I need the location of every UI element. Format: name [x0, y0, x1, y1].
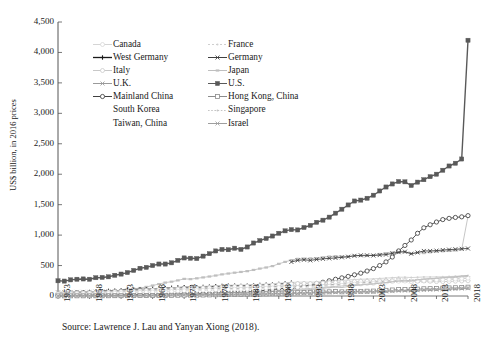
legend-label: Germany: [228, 51, 263, 64]
legend-marker-x-small-icon: [207, 118, 228, 129]
source-caption: Source: Lawrence J. Lau and Yanyan Xiong…: [62, 322, 259, 332]
legend-item-u-s-[interactable]: U.S.: [207, 77, 322, 90]
legend-marker-light-dot-icon: [207, 39, 228, 50]
legend-marker-x-icon: [207, 52, 228, 63]
series-japan: [56, 215, 470, 295]
x-tick-label: 1998: [346, 284, 356, 302]
legend-label: Mainland China: [113, 90, 173, 103]
legend-item-u-k-[interactable]: U.K.: [92, 77, 207, 90]
legend-marker-x-icon: [92, 78, 113, 89]
legend-item-taiwan-china[interactable]: Taiwan, China: [92, 117, 207, 130]
x-tick-label: 1963: [125, 284, 135, 302]
legend-label: Italy: [113, 64, 130, 77]
legend-label: Taiwan, China: [113, 117, 167, 130]
x-tick-label: 1983: [251, 284, 261, 302]
legend-label: Canada: [113, 38, 141, 51]
legend-label: Israel: [228, 117, 249, 130]
legend-item-france[interactable]: France: [207, 38, 322, 51]
legend-marker-plain-gray-icon: [92, 105, 113, 116]
legend-item-italy[interactable]: Italy: [92, 64, 207, 77]
legend-label: Singapore: [228, 103, 266, 116]
legend-row: West GermanyGermany: [92, 51, 322, 64]
x-tick-label: 2013: [440, 284, 450, 302]
x-tick-label: 1988: [283, 284, 293, 302]
legend-item-singapore[interactable]: Singapore: [207, 103, 322, 116]
x-tick-label: 1978: [220, 284, 230, 302]
legend-marker-open-circle-light-icon: [92, 39, 113, 50]
legend-marker-dotted-icon: [207, 105, 228, 116]
x-tick-label: 1953: [62, 284, 72, 302]
legend-row: Taiwan, ChinaIsrael: [92, 117, 322, 130]
legend-label: U.K.: [113, 77, 131, 90]
legend-row: U.K.U.S.: [92, 77, 322, 90]
series-canada: [56, 276, 470, 296]
legend-item-germany[interactable]: Germany: [207, 51, 322, 64]
legend-item-hong-kong-china[interactable]: Hong Kong, China: [207, 90, 322, 103]
legend-label: West Germany: [113, 51, 168, 64]
legend-item-west-germany[interactable]: West Germany: [92, 51, 207, 64]
legend-item-south-korea[interactable]: South Korea: [92, 103, 207, 116]
x-tick-label: 2018: [472, 284, 482, 302]
legend-label: France: [228, 38, 253, 51]
legend-item-mainland-china[interactable]: Mainland China: [92, 90, 207, 103]
legend-row: South KoreaSingapore: [92, 103, 322, 116]
series-germany: [289, 247, 470, 264]
legend-item-canada[interactable]: Canada: [92, 38, 207, 51]
x-tick-label: 1973: [188, 284, 198, 302]
legend-item-israel[interactable]: Israel: [207, 117, 322, 130]
legend-row: CanadaFrance: [92, 38, 322, 51]
x-tick-label: 2003: [377, 284, 387, 302]
legend-marker-open-square-icon: [207, 91, 228, 102]
legend-row: ItalyJapan: [92, 64, 322, 77]
chart-figure: US$ billion, in 2016 prices 05001,0001,5…: [0, 0, 482, 341]
legend-marker-plus-icon: [92, 52, 113, 63]
legend-label: U.S.: [228, 77, 245, 90]
legend-label: South Korea: [113, 103, 160, 116]
legend-marker-plain-gray2-icon: [92, 118, 113, 129]
legend-label: Japan: [228, 64, 249, 77]
x-tick-label: 1993: [314, 284, 324, 302]
chart-legend: CanadaFranceWest GermanyGermanyItalyJapa…: [92, 38, 322, 130]
legend-label: Hong Kong, China: [228, 90, 299, 103]
x-tick-label: 1968: [157, 284, 167, 302]
legend-item-japan[interactable]: Japan: [207, 64, 322, 77]
legend-marker-light-dash-icon: [207, 65, 228, 76]
legend-marker-open-circle-icon: [92, 91, 113, 102]
x-tick-label: 2008: [409, 284, 419, 302]
x-tick-label: 1958: [94, 284, 104, 302]
legend-marker-light-circle-icon: [92, 65, 113, 76]
legend-marker-filled-square-icon: [207, 78, 228, 89]
legend-row: Mainland ChinaHong Kong, China: [92, 90, 322, 103]
